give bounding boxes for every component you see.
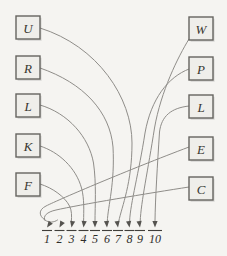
arrowhead-6 (104, 221, 110, 228)
target-number-2: 2 (57, 232, 63, 246)
target-number-6: 6 (104, 232, 110, 246)
arrowhead-2 (57, 221, 65, 229)
curve-K-to-4 (40, 146, 84, 221)
box-label-W: W (196, 22, 208, 37)
target-number-1: 1 (44, 232, 50, 246)
target-number-10: 10 (149, 232, 161, 246)
curve-C-to-1 (44, 187, 189, 221)
box-label-C: C (197, 182, 206, 197)
target-number-5: 5 (92, 232, 98, 246)
curve-L2-to-10 (155, 106, 189, 221)
mapping-diagram: URLKFWPLEC12345678910 (0, 0, 227, 256)
arrowhead-3 (69, 221, 75, 228)
box-label-U: U (23, 21, 34, 36)
box-label-K: K (23, 139, 34, 154)
arrowhead-4 (81, 221, 87, 228)
box-label-L2: L (196, 100, 204, 115)
box-label-P: P (196, 62, 205, 77)
arrowhead-8 (126, 221, 132, 228)
box-label-F: F (23, 178, 33, 193)
box-label-E: E (196, 142, 205, 157)
curve-R-to-6 (40, 68, 113, 221)
target-number-7: 7 (115, 232, 122, 246)
curve-P-to-8 (130, 69, 189, 221)
arrowhead-7 (115, 221, 121, 228)
arrowhead-5 (92, 221, 97, 228)
curve-U-to-7 (40, 28, 132, 221)
box-label-L1: L (23, 99, 31, 114)
target-number-9: 9 (137, 232, 143, 246)
target-number-3: 3 (68, 232, 75, 246)
target-number-8: 8 (127, 232, 133, 246)
target-number-4: 4 (81, 232, 87, 246)
arrowhead-10 (152, 221, 157, 228)
arrowhead-9 (137, 221, 143, 228)
box-label-R: R (23, 61, 32, 76)
figure-canvas: URLKFWPLEC12345678910 (0, 0, 227, 256)
